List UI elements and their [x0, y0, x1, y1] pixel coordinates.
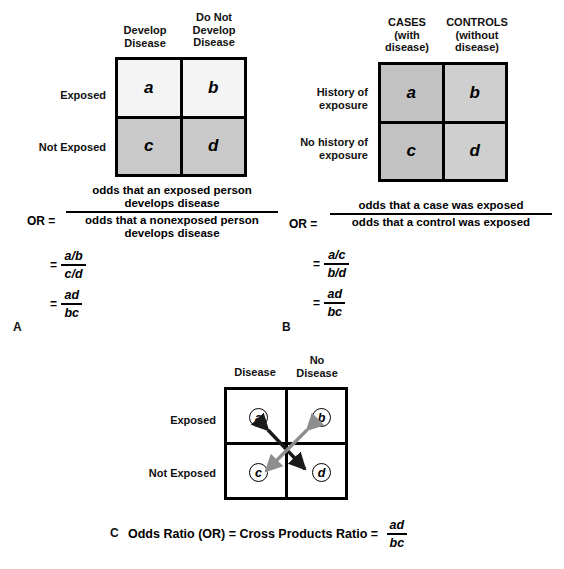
col-header-line: (with [376, 29, 438, 42]
col-header-line: (without [438, 29, 516, 42]
cell-d: d [183, 119, 245, 175]
fraction-denominator: c/d [61, 266, 85, 281]
col-header-line: Disease [180, 36, 248, 49]
cell-d: d [445, 124, 506, 180]
fraction: ad bc [324, 287, 345, 319]
panel-c-row-header-not-exposed: Not Exposed [116, 467, 216, 480]
panel-b: CASES (with disease) CONTROLS (without d… [282, 0, 564, 330]
cell-c: c [118, 119, 180, 175]
circled-letter-d: d [312, 463, 331, 482]
panel-c-caption: Odds Ratio (OR) = Cross Products Ratio =… [128, 518, 407, 550]
row-header-line: History of [282, 86, 368, 99]
fraction-denominator: bc [61, 305, 82, 320]
cell-a: a [118, 60, 180, 116]
denominator-line: develops disease [66, 227, 278, 240]
denominator: odds that a nonexposed person develops d… [66, 213, 278, 240]
row-header-line: exposure [282, 99, 368, 112]
circled-letter-c: c [249, 463, 268, 482]
fraction-denominator: bc [387, 535, 408, 550]
step-equals: = [50, 258, 57, 272]
panel-b-step-2: = ad bc [313, 287, 345, 319]
panel-b-row-header-no-history-of-exposure: No history of exposure [282, 136, 368, 161]
numerator-line: develops disease [66, 197, 278, 210]
panel-a-word-fraction: odds that an exposed person develops dis… [66, 184, 278, 240]
or-equals: OR = [27, 214, 55, 228]
panel-a-row-header-exposed: Exposed [10, 89, 106, 102]
fraction: a/b c/d [61, 249, 85, 281]
col-header-line: CONTROLS [438, 16, 516, 29]
panel-a-or-label: OR = [27, 211, 55, 229]
fraction-numerator: ad [387, 518, 408, 535]
panel-c-col-header-disease: Disease [226, 366, 284, 379]
cell-c: c [381, 124, 442, 180]
step-equals: = [313, 257, 320, 271]
panel-b-word-fraction: odds that a case was exposed odds that a… [330, 199, 552, 229]
panel-a: Develop Disease Do Not Develop Disease E… [0, 0, 282, 330]
row-header-line: exposure [282, 149, 368, 162]
denominator-line: odds that a nonexposed person [66, 214, 278, 227]
numerator: odds that a case was exposed [330, 199, 552, 215]
panel-c-contingency-table [224, 387, 348, 500]
panel-b-col-header-controls: CONTROLS (without disease) [438, 16, 516, 54]
panel-a-row-header-not-exposed: Not Exposed [6, 141, 106, 154]
panel-a-step-2: = ad bc [50, 288, 82, 320]
fraction-numerator: ad [61, 288, 82, 305]
col-header-line: Disease [226, 366, 284, 379]
col-header-line: Do Not [180, 11, 248, 24]
panel-c-col-header-no-disease: No Disease [288, 354, 346, 379]
panel-a-col-header-do-not-develop-disease: Do Not Develop Disease [180, 11, 248, 49]
col-header-line: No [288, 354, 346, 367]
col-header-line: Develop [180, 24, 248, 37]
denominator-line: odds that a control was exposed [330, 216, 552, 229]
row-header-line: No history of [282, 136, 368, 149]
fraction-denominator: b/d [324, 265, 349, 280]
fraction-numerator: a/c [324, 248, 349, 265]
col-header-line: Disease [288, 367, 346, 380]
caption-fraction: ad bc [387, 518, 408, 550]
or-equals: OR = [289, 217, 317, 231]
panel-b-contingency-table: a b c d [378, 62, 508, 182]
step-equals: = [50, 297, 57, 311]
numerator-line: odds that a case was exposed [330, 199, 552, 212]
col-header-line: CASES [376, 16, 438, 29]
fraction: a/c b/d [324, 248, 349, 280]
fraction: ad bc [61, 288, 82, 320]
panel-a-step-1: = a/b c/d [50, 249, 86, 281]
panel-c: Disease No Disease Exposed Not Exposed a… [0, 330, 564, 569]
caption-text: Odds Ratio (OR) = Cross Products Ratio = [128, 527, 378, 541]
circled-letter-b: b [312, 408, 331, 427]
cell-b: b [183, 60, 245, 116]
panel-b-or-label: OR = [289, 214, 317, 232]
col-header-line: disease) [438, 41, 516, 54]
panel-a-contingency-table: a b c d [115, 57, 247, 177]
fraction-numerator: ad [324, 287, 345, 304]
panel-b-row-header-history-of-exposure: History of exposure [282, 86, 368, 111]
circled-letter-a: a [249, 408, 268, 427]
numerator: odds that an exposed person develops dis… [66, 184, 278, 213]
cell-a: a [381, 65, 442, 121]
panel-c-letter: C [110, 526, 119, 540]
panel-c-row-header-exposed: Exposed [120, 414, 216, 427]
denominator: odds that a control was exposed [330, 215, 552, 229]
panel-b-col-header-cases: CASES (with disease) [376, 16, 438, 54]
numerator-line: odds that an exposed person [66, 184, 278, 197]
fraction-numerator: a/b [61, 249, 85, 266]
col-header-line: Develop [116, 24, 174, 37]
cell-b: b [445, 65, 506, 121]
panel-a-col-header-develop-disease: Develop Disease [116, 24, 174, 49]
step-equals: = [313, 296, 320, 310]
panel-b-step-1: = a/c b/d [313, 248, 349, 280]
fraction-denominator: bc [324, 304, 345, 319]
col-header-line: disease) [376, 41, 438, 54]
col-header-line: Disease [116, 37, 174, 50]
